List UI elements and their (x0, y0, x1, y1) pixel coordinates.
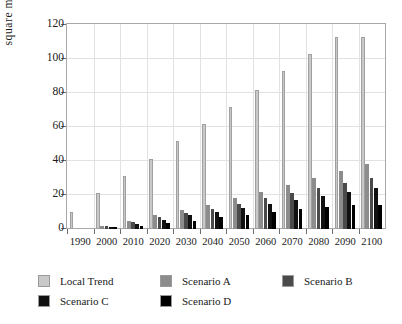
y-axis-tick-label: 0 (24, 222, 64, 234)
y-axis-tick-label: 40 (24, 154, 64, 166)
x-axis-tick (147, 229, 148, 234)
bar (188, 215, 192, 229)
y-axis-tick-label: 100 (24, 52, 64, 64)
legend-label: Scenario C (60, 295, 109, 307)
bar (180, 210, 184, 229)
x-axis-tick-label: 2100 (352, 236, 392, 248)
y-axis-tick-label: 60 (24, 120, 64, 132)
bar (259, 192, 263, 229)
legend-swatch-icon (160, 275, 172, 287)
bar (70, 212, 74, 229)
legend-item: Scenario D (160, 291, 231, 311)
bar (268, 204, 272, 230)
y-axis-title: square miles (2, 0, 20, 78)
bar (215, 212, 219, 229)
bar (153, 215, 157, 229)
bar (219, 217, 223, 229)
bar (272, 212, 276, 229)
legend-item: Scenario A (160, 271, 231, 291)
bar (162, 220, 166, 229)
bar (206, 205, 210, 229)
bar (127, 221, 131, 230)
bar (378, 205, 382, 229)
legend-item: Scenario B (282, 271, 353, 291)
bar (140, 226, 144, 229)
bar (96, 193, 100, 229)
bar (113, 227, 117, 229)
legend-swatch-icon (38, 275, 50, 287)
bar (339, 171, 343, 229)
x-axis-tick (253, 229, 254, 234)
x-axis-tick (67, 229, 68, 234)
legend-item: Local Trend (38, 271, 113, 291)
legend-label: Local Trend (60, 275, 113, 287)
x-axis-tick (359, 229, 360, 234)
bar (241, 208, 245, 229)
bars-layer (67, 24, 385, 229)
bar (233, 198, 237, 229)
x-axis-tick (279, 229, 280, 234)
bar-chart: square miles 020406080100120 19902000201… (0, 0, 402, 324)
legend-swatch-icon (38, 295, 50, 307)
bar (109, 227, 113, 229)
bar (365, 164, 369, 229)
bar (325, 207, 329, 229)
legend-swatch-icon (282, 275, 294, 287)
bar (193, 221, 197, 230)
legend-row: Local TrendScenario AScenario B (38, 271, 378, 291)
legend-item: Scenario C (38, 291, 109, 311)
bar (321, 196, 325, 229)
bar (286, 185, 290, 229)
bar (299, 209, 303, 229)
bar (312, 178, 316, 229)
bar (135, 224, 139, 229)
y-axis-tick-label: 120 (24, 18, 64, 30)
bar (352, 205, 356, 229)
bar (374, 188, 378, 229)
legend-label: Scenario B (304, 275, 353, 287)
x-axis-tick (173, 229, 174, 234)
x-axis-tick (306, 229, 307, 234)
y-axis-tick-label: 20 (24, 188, 64, 200)
legend-label: Scenario D (182, 295, 231, 307)
bar (294, 200, 298, 229)
bar (347, 192, 351, 229)
x-axis-tick (120, 229, 121, 234)
bar (166, 223, 170, 229)
legend-label: Scenario A (182, 275, 231, 287)
bar (246, 215, 250, 229)
legend-swatch-icon (160, 295, 172, 307)
y-axis-tick-label: 80 (24, 86, 64, 98)
x-axis-tick (94, 229, 95, 234)
x-axis-tick (200, 229, 201, 234)
x-axis-tick (332, 229, 333, 234)
chart-legend: Local TrendScenario AScenario B Scenario… (38, 271, 378, 311)
legend-row: Scenario CScenario D (38, 291, 378, 311)
x-axis-tick (226, 229, 227, 234)
bar (100, 226, 104, 229)
